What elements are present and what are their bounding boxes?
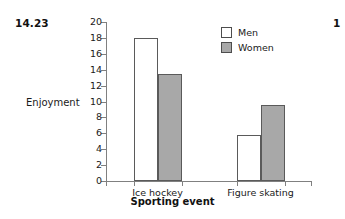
legend-swatch-men-icon — [221, 27, 232, 38]
cropped-edge-number: 1 — [333, 17, 340, 29]
y-axis-tick-label: 8 — [96, 111, 102, 122]
legend-label: Men — [238, 27, 258, 38]
y-axis-tick-label: 16 — [90, 48, 102, 59]
y-axis-tick-label: 14 — [90, 64, 102, 75]
y-axis-tick-label: 18 — [90, 32, 102, 43]
legend-label: Women — [238, 42, 274, 53]
x-axis-title: Sporting event — [0, 196, 345, 207]
y-axis-tick-label: 2 — [96, 159, 102, 170]
x-axis-line — [106, 181, 312, 182]
x-axis-tick-mark — [182, 181, 183, 186]
figure-canvas: 14.23 1 Enjoyment 20181614121086420 Ice … — [0, 0, 345, 219]
x-axis-tick-mark — [237, 181, 238, 186]
y-axis-tick-label: 20 — [90, 16, 102, 27]
y-axis-tick-label: 6 — [96, 127, 102, 138]
bar-men-ice-hockey — [134, 38, 158, 181]
figure-number-label: 14.23 — [15, 17, 49, 29]
x-axis-tick-mark — [311, 181, 312, 186]
y-axis-tick-label: 12 — [90, 80, 102, 91]
plot-area: 20181614121086420 Ice hockeyFigure skati… — [106, 22, 312, 181]
y-axis-tick-label: 0 — [96, 175, 102, 186]
bar-women-ice-hockey — [158, 74, 182, 181]
legend-swatch-women-icon — [221, 42, 232, 53]
legend-item-men: Men — [221, 25, 274, 40]
bar-women-figure-skating — [261, 105, 285, 181]
x-axis-tick-mark — [106, 181, 107, 186]
bar-men-figure-skating — [237, 135, 261, 181]
y-axis-tick-label: 10 — [90, 96, 102, 107]
x-axis-tick-mark — [285, 181, 286, 186]
legend: MenWomen — [221, 25, 274, 55]
y-axis-tick-label: 4 — [96, 143, 102, 154]
x-axis-tick-mark — [134, 181, 135, 186]
legend-item-women: Women — [221, 40, 274, 55]
y-axis-title: Enjoyment — [26, 97, 80, 108]
